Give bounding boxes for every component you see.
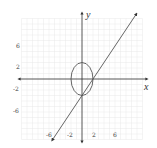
x-tick-label: -6 bbox=[46, 131, 52, 138]
y-tick-label: 6 bbox=[16, 42, 20, 49]
x-axis-label: x bbox=[143, 81, 149, 92]
x-tick-label: 2 bbox=[92, 131, 96, 138]
y-tick-label: -2 bbox=[13, 85, 19, 92]
y-tick-label: -6 bbox=[13, 107, 19, 114]
y-axis-label: y bbox=[85, 9, 91, 20]
y-tick-label: 2 bbox=[16, 63, 20, 70]
coordinate-plot: y x -6 -2 2 6 6 2 -2 -6 bbox=[0, 0, 157, 148]
x-tick-label: 6 bbox=[113, 131, 117, 138]
x-tick-label: -2 bbox=[67, 131, 73, 138]
line-curve bbox=[52, 14, 136, 140]
